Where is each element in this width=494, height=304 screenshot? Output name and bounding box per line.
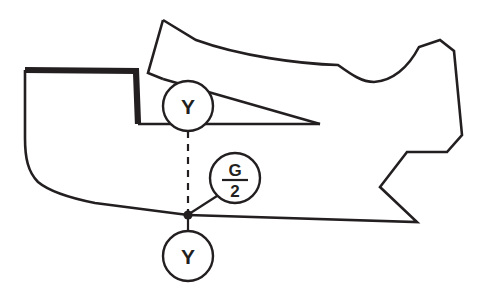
callout-grainline-half[interactable]: G 2	[210, 153, 260, 203]
lower-notch-label: Y	[181, 245, 195, 268]
callout-upper-notch[interactable]: Y	[163, 81, 213, 131]
pattern-diagram-canvas: Y G 2 Y	[0, 0, 494, 304]
pattern-drawing: Y G 2 Y	[0, 0, 494, 304]
grainline-numerator-label: G	[228, 161, 241, 180]
left-panel-lower-outline	[25, 70, 188, 215]
upper-panel-left-edge	[148, 20, 163, 79]
balance-point-node	[183, 210, 192, 219]
upper-notch-label: Y	[181, 95, 195, 118]
left-panel-bold-edge	[25, 70, 138, 124]
grainline-denominator-label: 2	[230, 182, 239, 201]
grain-leader-line	[189, 196, 217, 214]
callout-lower-notch[interactable]: Y	[163, 231, 213, 281]
